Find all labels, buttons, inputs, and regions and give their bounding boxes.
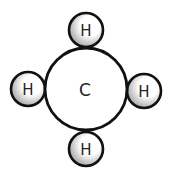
carbon-label: C <box>79 80 91 100</box>
hydrogen-atom-right: H <box>127 74 161 108</box>
carbon-atom: C <box>45 48 127 130</box>
hydrogen-atom-top: H <box>69 13 103 47</box>
hydrogen-label: H <box>22 81 33 99</box>
hydrogen-label: H <box>80 22 91 40</box>
methane-diagram: H H H H C <box>0 0 170 175</box>
hydrogen-label: H <box>80 141 91 159</box>
hydrogen-atom-left: H <box>11 72 45 106</box>
hydrogen-label: H <box>138 83 149 101</box>
hydrogen-atom-bottom: H <box>69 132 103 166</box>
